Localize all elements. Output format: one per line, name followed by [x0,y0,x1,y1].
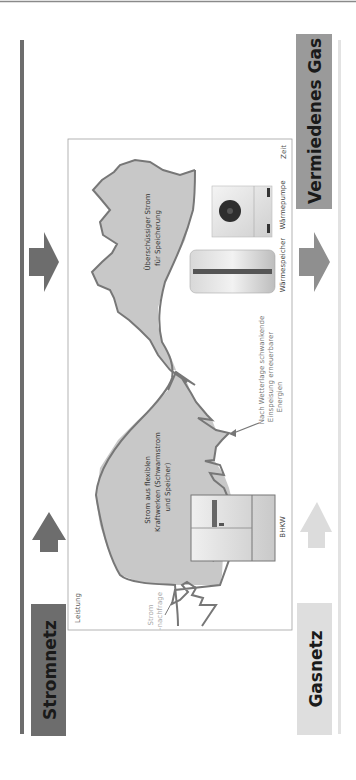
vermiedenes-gas-heading-text: Vermiedenes Gas [305,38,325,204]
bhkw-device: BHKW [191,495,287,561]
energy-diagram: Stromnetz Gasnetz Vermiedenes Gas Leistu… [0,0,356,780]
stromnetz-heading: Stromnetz [31,604,66,736]
waermepumpe-label: Wärmepumpe [279,180,287,229]
stromnetz-rule [20,40,24,734]
demand-label-line1: Strom [147,604,155,625]
flex-label-line1: Strom aus flexiblen [144,456,152,524]
surplus-label-line2: für Speicherung [154,210,162,266]
flex-label-line2: Kraftwerken (Schwarmstrom [154,432,162,532]
stromnetz-heading-text: Stromnetz [40,620,60,720]
surplus-label-line1: Überschüssiger Strom [143,193,152,270]
arrow-up-stromnetz-icon [32,512,66,552]
renewables-label-line2: Einspeisung erneuerbarer [267,332,275,423]
x-axis-label: Zeit [280,145,288,159]
gasnetz-heading-text: Gasnetz [306,630,326,707]
waermespeicher-label: Wärmespeicher [279,238,287,293]
renewables-label-line3: Energien [276,381,284,412]
arrow-down-surplus-icon [29,232,59,292]
gasnetz-heading: Gasnetz [297,603,332,735]
arrow-up-gasnetz-icon [300,502,332,548]
y-axis-label: Leistung [74,593,82,623]
renewables-label-line1: Nach Wetterlage schwankende [258,316,266,424]
vermiedenes-gas-heading: Vermiedenes Gas [296,34,332,209]
demand-label-line2: -nachfrage [156,592,164,630]
flex-label-line3: und Speicher) [164,462,172,511]
arrow-down-vermiedenes-gas-icon [299,232,330,292]
gasnetz-rule [338,40,341,734]
bhkw-label: BHKW [279,516,287,537]
